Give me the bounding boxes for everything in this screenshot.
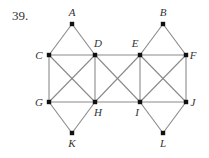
node-L [161,131,165,135]
node-label-K: K [67,137,76,149]
edge-H-K [72,102,95,133]
node-B [161,22,165,26]
node-E [138,53,142,57]
node-label-F: F [189,49,197,61]
node-F [184,53,188,57]
edge-A-D [72,24,95,55]
node-label-J: J [191,96,197,108]
node-C [47,53,51,57]
node-G [47,100,51,104]
node-label-H: H [93,106,103,118]
node-label-B: B [160,6,167,18]
edge-B-E [140,24,163,55]
node-label-A: A [68,6,76,18]
node-label-L: L [159,137,166,149]
node-label-C: C [35,49,43,61]
node-label-D: D [93,37,102,49]
node-label-I: I [134,106,140,118]
edge-A-C [49,24,72,55]
graph-edges [49,24,186,133]
node-label-G: G [35,96,43,108]
node-K [70,131,74,135]
node-I [138,100,142,104]
edge-I-L [140,102,163,133]
node-J [184,100,188,104]
edge-J-L [163,102,186,133]
node-H [93,100,97,104]
graph-diagram: ABCDEFGHIJKL [0,0,209,158]
edge-G-K [49,102,72,133]
node-D [93,53,97,57]
node-A [70,22,74,26]
edge-B-F [163,24,186,55]
node-label-E: E [131,37,139,49]
